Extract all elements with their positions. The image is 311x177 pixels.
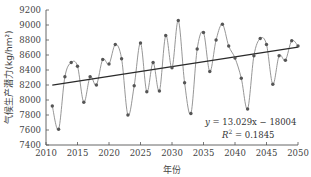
x-axis-title: 年份	[163, 164, 181, 175]
y-tick-label: 8000	[19, 95, 41, 105]
data-point	[196, 47, 199, 50]
equation-rhs: = 13.029x − 18004	[210, 117, 297, 127]
x-tick-label: 2035	[193, 148, 215, 158]
data-point	[170, 66, 173, 69]
data-point	[233, 56, 236, 59]
x-tick-label: 2010	[35, 148, 57, 158]
data-point	[101, 58, 104, 61]
regression-equation: y = 13.029x − 18004	[204, 117, 296, 127]
trend-line	[52, 47, 298, 85]
data-point	[107, 62, 110, 65]
data-point	[265, 43, 268, 46]
data-point	[284, 59, 287, 62]
y-ticks: 7400760078008000820084008600880090009200	[19, 5, 49, 150]
data-point	[139, 41, 142, 44]
data-point	[158, 89, 161, 92]
y-axis-title: 气候生产潜力(kg/hm²)	[3, 30, 14, 123]
data-point	[277, 54, 280, 57]
data-points	[51, 19, 300, 131]
data-point	[126, 113, 129, 116]
y-tick-label: 8200	[19, 80, 41, 90]
x-tick-label: 2050	[287, 148, 309, 158]
series-line	[52, 20, 298, 129]
data-point	[120, 57, 123, 60]
data-point	[221, 23, 224, 26]
data-point	[246, 107, 249, 110]
y-tick-label: 8600	[19, 50, 41, 60]
data-point	[240, 77, 243, 80]
data-point	[177, 19, 180, 22]
data-point	[114, 43, 117, 46]
data-point	[88, 75, 91, 78]
data-point	[82, 101, 85, 104]
y-tick-label: 9200	[19, 5, 41, 15]
data-point	[51, 104, 54, 107]
y-tick-label: 9000	[19, 20, 41, 30]
data-point	[208, 70, 211, 73]
data-point	[183, 81, 186, 84]
data-point	[70, 61, 73, 64]
y-tick-label: 7600	[19, 125, 41, 135]
data-point	[227, 44, 230, 47]
data-point	[76, 65, 79, 68]
x-tick-label: 2045	[256, 148, 278, 158]
r-squared: R2 = 0.1845	[221, 128, 275, 140]
x-tick-label: 2030	[161, 148, 183, 158]
data-point	[259, 37, 262, 40]
data-point	[133, 84, 136, 87]
data-point	[290, 39, 293, 42]
data-point	[189, 112, 192, 115]
data-point	[57, 128, 60, 131]
data-point	[252, 54, 255, 57]
x-tick-label: 2025	[130, 148, 152, 158]
x-tick-label: 2040	[224, 148, 246, 158]
y-tick-label: 8800	[19, 35, 41, 45]
data-point	[151, 61, 154, 64]
data-point	[271, 83, 274, 86]
data-point	[296, 44, 299, 47]
climate-potential-chart: 7400760078008000820084008600880090009200…	[0, 0, 311, 177]
data-point	[214, 38, 217, 41]
data-point	[95, 83, 98, 86]
y-tick-label: 7800	[19, 110, 41, 120]
r2-rhs: = 0.1845	[232, 130, 274, 140]
data-point	[202, 31, 205, 34]
data-point	[145, 90, 148, 93]
data-point	[63, 75, 66, 78]
x-tick-label: 2020	[98, 148, 120, 158]
y-tick-label: 8400	[19, 65, 41, 75]
x-ticks: 201020152020202520302035204020452050	[35, 142, 309, 158]
x-tick-label: 2015	[67, 148, 89, 158]
data-point	[164, 34, 167, 37]
